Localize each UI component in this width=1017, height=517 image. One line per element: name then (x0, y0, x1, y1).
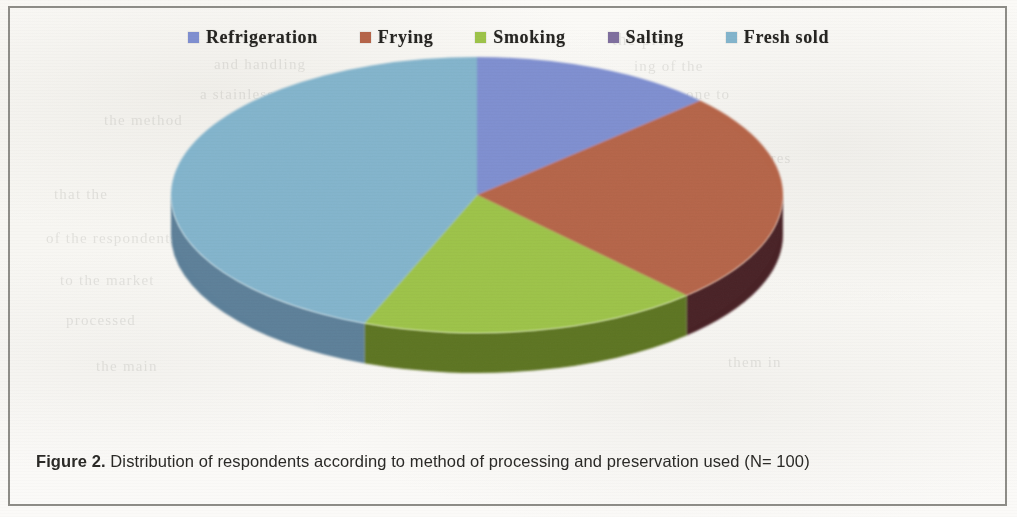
figure-caption: Figure 2. Distribution of respondents ac… (36, 452, 986, 471)
pie-chart (0, 0, 1017, 460)
pie-chart-svg (0, 0, 1017, 460)
figure-caption-text: Distribution of respondents according to… (106, 452, 810, 470)
pie-grain-overlay (171, 57, 783, 373)
figure-number: Figure 2. (36, 452, 106, 470)
pie-texture (171, 57, 783, 373)
figure-page: the proand handlinging of thea stainless… (0, 0, 1017, 517)
